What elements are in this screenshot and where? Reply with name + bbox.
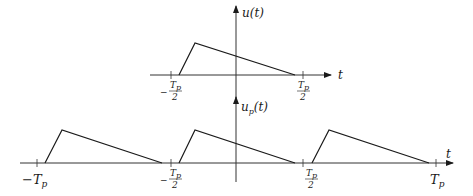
top-y-axis-label: u(t) [242,6,264,20]
top-plot: u(t) t − Tp 2 Tp 2 [150,6,343,102]
bottom-y-axis-label: up(t) [241,100,268,116]
svg-text:Tp: Tp [306,168,317,180]
top-x-axis-label: t [338,68,343,82]
svg-text:2: 2 [171,92,178,102]
periodic-pulse-2 [179,130,295,163]
svg-text:−: − [160,175,168,185]
periodic-pulse-1 [45,130,162,163]
svg-text:Tp: Tp [298,80,309,92]
svg-text:Tp: Tp [170,80,181,92]
bottom-label-pos-tp: Tp [430,172,445,189]
bottom-label-pos-half: Tp 2 [305,168,318,190]
bottom-label-neg-tp: −Tp [22,172,48,189]
periodic-pulse-3 [312,130,429,163]
bottom-plot: up(t) t −Tp − Tp 2 Tp 2 Tp [20,97,453,190]
top-label-neg-half: − Tp 2 [160,80,182,102]
svg-text:2: 2 [299,92,306,102]
top-label-pos-half: Tp 2 [297,80,310,102]
top-pulse-waveform [179,43,295,75]
svg-text:2: 2 [171,180,178,190]
bottom-label-neg-half: − Tp 2 [160,168,182,190]
bottom-x-axis-label: t [446,147,451,161]
svg-text:2: 2 [307,180,314,190]
diagram-canvas: u(t) t − Tp 2 Tp 2 up(t) [0,0,473,196]
svg-text:−: − [160,87,168,97]
svg-text:Tp: Tp [170,168,181,180]
